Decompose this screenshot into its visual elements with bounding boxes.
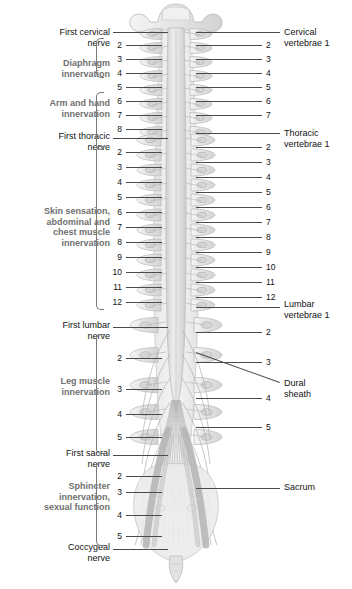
vertebra-number-right: 9	[266, 248, 278, 257]
leader-line-first-thoracic	[113, 138, 168, 139]
leader-line-right	[196, 267, 262, 268]
leader-line-right	[196, 87, 262, 88]
leader-line-left	[126, 272, 162, 273]
nerve-number-left: 6	[110, 208, 122, 217]
leader-line-left	[126, 389, 162, 390]
leader-line-left	[126, 115, 162, 116]
leader-line-left	[126, 197, 162, 198]
group-label-leg-muscle-innervation: Leg muscle innervation	[8, 376, 110, 397]
nerve-number-left: 10	[110, 268, 122, 277]
coccyx-bone	[169, 556, 183, 583]
group-label-sphincter-innervation: Sphincter innervation, sexual function	[8, 481, 110, 513]
vertebra-number-right: 4	[266, 69, 278, 78]
brace-sphincter	[96, 462, 104, 546]
nerve-number-left: 5	[110, 433, 122, 442]
leader-line-right	[196, 101, 262, 102]
vertebra-number-right: 5	[266, 423, 278, 432]
leader-line-left	[126, 302, 162, 303]
leader-line-left	[126, 287, 162, 288]
vertebra-number-right: 2	[266, 143, 278, 152]
vertebra-number-right: 8	[266, 233, 278, 242]
nerve-number-left: 2	[110, 148, 122, 157]
leader-line-left	[126, 59, 162, 60]
leader-line-left	[126, 358, 162, 359]
leader-line-left	[126, 212, 162, 213]
vertebra-number-right: 2	[266, 41, 278, 50]
vertebra-number-right: 4	[266, 394, 278, 403]
leader-line-right	[196, 222, 262, 223]
vertebra-number-right: 3	[266, 358, 278, 367]
leader-line-right	[196, 45, 262, 46]
leader-line-cervical-vertebrae-1	[196, 32, 280, 33]
leader-line-left	[126, 45, 162, 46]
leader-line-left	[126, 227, 162, 228]
leader-line-right	[196, 398, 262, 399]
nerve-number-left: 3	[110, 385, 122, 394]
vertebra-number-right: 6	[266, 203, 278, 212]
leader-line-left	[126, 414, 162, 415]
leader-line-sacrum	[196, 488, 280, 489]
leader-line-right	[196, 192, 262, 193]
nerve-number-left: 11	[110, 283, 122, 292]
leader-line-right	[196, 297, 262, 298]
leader-line-first-cervical	[113, 32, 168, 33]
leader-line-right	[196, 332, 262, 333]
leader-line-left	[126, 129, 162, 130]
label-thoracic-vertebrae-1: Thoracic vertebrae 1	[284, 128, 350, 149]
leader-line-left	[126, 476, 162, 477]
label-cervical-vertebrae-1: Cervical vertebrae 1	[284, 27, 350, 48]
leader-line-left	[126, 87, 162, 88]
nerve-number-left: 5	[110, 193, 122, 202]
vertebra-number-right: 6	[266, 97, 278, 106]
vertebra-number-right: 10	[266, 263, 278, 272]
leader-line-left	[126, 152, 162, 153]
nerve-number-left: 12	[110, 298, 122, 307]
leader-line-right	[196, 73, 262, 74]
leader-line-first-sacral	[113, 455, 168, 456]
leader-line-thoracic-vertebrae-1	[196, 133, 280, 134]
vertebra-number-right: 4	[266, 173, 278, 182]
leader-line-left	[126, 437, 162, 438]
leader-line-coccygeal	[113, 549, 168, 550]
leader-line-left	[126, 101, 162, 102]
leader-line-right	[196, 427, 262, 428]
leader-line-right	[196, 177, 262, 178]
nerve-number-left: 6	[110, 97, 122, 106]
leader-line-right	[196, 162, 262, 163]
nerve-number-left: 3	[110, 488, 122, 497]
leader-line-left	[126, 515, 162, 516]
leader-line-left	[126, 257, 162, 258]
leader-line-left	[126, 182, 162, 183]
nerve-number-left: 4	[110, 178, 122, 187]
nerve-number-left: 2	[110, 472, 122, 481]
spinal-cord-diagram: First cervical nerve First thoracic nerv…	[0, 0, 352, 589]
leader-line-right	[196, 59, 262, 60]
leader-line-right	[196, 115, 262, 116]
group-label-arm-and-hand-innervation: Arm and hand innervation	[8, 98, 110, 119]
leader-line-lumbar-vertebrae-1	[196, 307, 280, 308]
nerve-number-left: 2	[110, 41, 122, 50]
leader-line-left	[126, 492, 162, 493]
vertebra-number-right: 3	[266, 55, 278, 64]
brace-skin-sensation	[96, 146, 104, 310]
vertebra-number-right: 5	[266, 188, 278, 197]
brace-leg-muscle	[96, 334, 104, 454]
brace-diaphragm	[96, 38, 104, 78]
leader-line-first-lumbar	[113, 327, 168, 328]
nerve-number-left: 2	[110, 354, 122, 363]
spinal-cord	[166, 28, 186, 412]
nerve-number-left: 7	[110, 111, 122, 120]
nerve-number-left: 5	[110, 532, 122, 541]
nerve-number-left: 4	[110, 410, 122, 419]
leader-line-left	[126, 73, 162, 74]
vertebra-number-right: 12	[266, 293, 278, 302]
group-label-diaphragm-innervation: Diaphragm innervation	[8, 58, 110, 79]
leader-line-right	[196, 252, 262, 253]
brace-arm-hand	[96, 92, 104, 150]
nerve-number-left: 3	[110, 55, 122, 64]
leader-line-left	[126, 536, 162, 537]
vertebra-number-right: 2	[266, 328, 278, 337]
vertebra-number-right: 11	[266, 278, 278, 287]
nerve-number-left: 8	[110, 125, 122, 134]
leader-line-right	[196, 147, 262, 148]
